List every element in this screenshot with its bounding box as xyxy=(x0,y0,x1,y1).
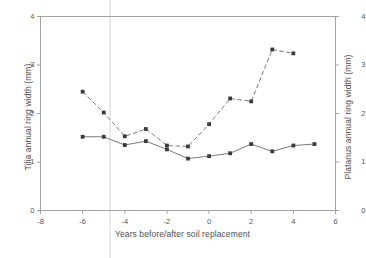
y-axis-right-tick-4: 4 xyxy=(342,12,366,21)
series-tilia xyxy=(81,135,317,161)
x-axis-tick--2: -2 xyxy=(155,217,179,226)
x-axis-tick-0: 0 xyxy=(197,217,221,226)
y-axis-left-tick-3: 3 xyxy=(11,60,35,69)
x-axis-tick-4: 4 xyxy=(281,217,305,226)
y-axis-left-tick-2: 2 xyxy=(11,109,35,118)
y-axis-left-tick-0: 0 xyxy=(11,206,35,215)
axis-ticks xyxy=(37,17,339,215)
x-axis-tick--4: -4 xyxy=(113,217,137,226)
y-axis-left-tick-4: 4 xyxy=(11,12,35,21)
series-platanus xyxy=(81,48,296,149)
x-axis-title: Years before/after soil replacement xyxy=(0,229,365,239)
plot-frame xyxy=(41,17,336,211)
y-axis-right-tick-2: 2 xyxy=(342,109,366,118)
y-axis-right-tick-3: 3 xyxy=(342,60,366,69)
x-axis-tick-6: 6 xyxy=(324,217,348,226)
y-axis-right-tick-1: 1 xyxy=(342,157,366,166)
x-axis-tick-2: 2 xyxy=(239,217,263,226)
y-axis-left-tick-1: 1 xyxy=(11,157,35,166)
y-axis-right-tick-0: 0 xyxy=(342,206,366,215)
x-axis-tick--8: -8 xyxy=(29,217,53,226)
x-axis-tick--6: -6 xyxy=(71,217,95,226)
